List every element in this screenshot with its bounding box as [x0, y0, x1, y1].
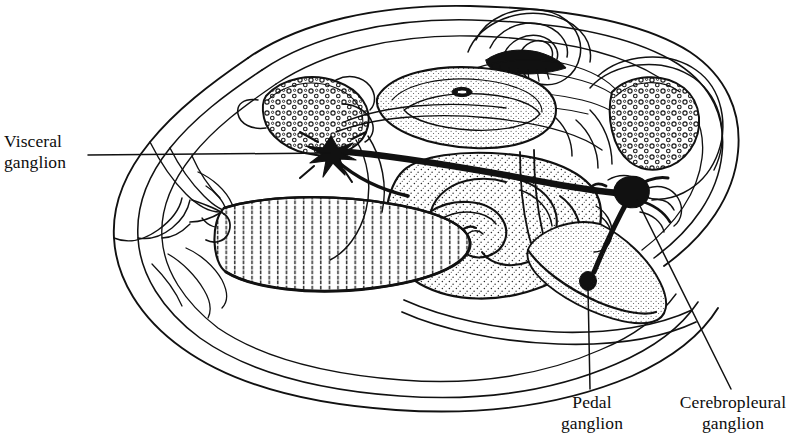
- label-pedal-line1: Pedal: [556, 392, 628, 413]
- figure-container: Visceral ganglion Pedal ganglion Cerebro…: [0, 0, 804, 444]
- label-cerebropleural-line1: Cerebropleural: [667, 392, 799, 413]
- anatomy-diagram: [0, 0, 804, 444]
- label-cerebropleural-ganglion: Cerebropleural ganglion: [667, 392, 799, 434]
- label-visceral-line2: ganglion: [4, 152, 66, 173]
- foot: [527, 222, 666, 323]
- label-visceral-ganglion: Visceral ganglion: [4, 131, 66, 173]
- label-cerebropleural-line2: ganglion: [667, 413, 799, 434]
- label-pedal-ganglion: Pedal ganglion: [556, 392, 628, 434]
- leader-visceral: [88, 153, 330, 155]
- label-visceral-line1: Visceral: [4, 131, 66, 152]
- gonad-right: [610, 77, 699, 169]
- label-pedal-line2: ganglion: [556, 413, 628, 434]
